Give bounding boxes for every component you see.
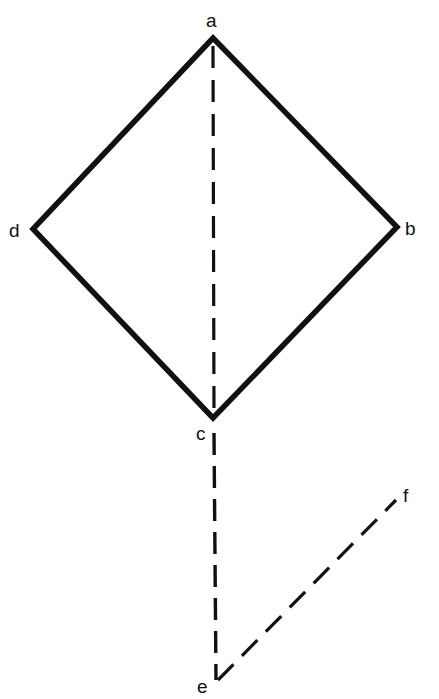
label-c: c	[196, 423, 206, 444]
label-d: d	[9, 220, 20, 241]
dashed-line-c-e	[214, 433, 216, 680]
label-f: f	[403, 485, 409, 506]
geometry-diagram: a b c d e f	[0, 0, 439, 699]
label-a: a	[206, 10, 217, 31]
label-e: e	[197, 676, 208, 697]
dashed-line-e-f	[218, 500, 396, 680]
label-b: b	[405, 218, 416, 239]
dashed-line-a-c	[213, 46, 214, 412]
